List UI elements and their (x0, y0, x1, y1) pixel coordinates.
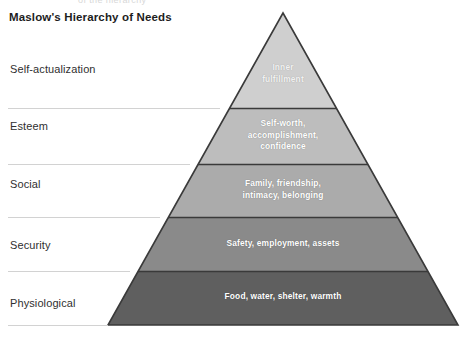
level-label-column: Self-actualization Esteem Social Securit… (0, 0, 473, 338)
level-separator-2 (8, 164, 190, 165)
level-separator-3 (8, 217, 160, 218)
level-label-self-actualization[interactable]: Self-actualization (10, 63, 96, 75)
figure-canvas: of the hierarchy Maslow's Hierarchy of N… (0, 0, 473, 338)
level-label-security[interactable]: Security (10, 239, 51, 251)
level-separator-4 (8, 271, 130, 272)
level-separator-5 (8, 325, 108, 326)
level-label-esteem[interactable]: Esteem (10, 120, 48, 132)
level-separator-1 (8, 108, 220, 109)
level-label-social[interactable]: Social (10, 178, 41, 190)
level-label-physiological[interactable]: Physiological (10, 297, 76, 309)
